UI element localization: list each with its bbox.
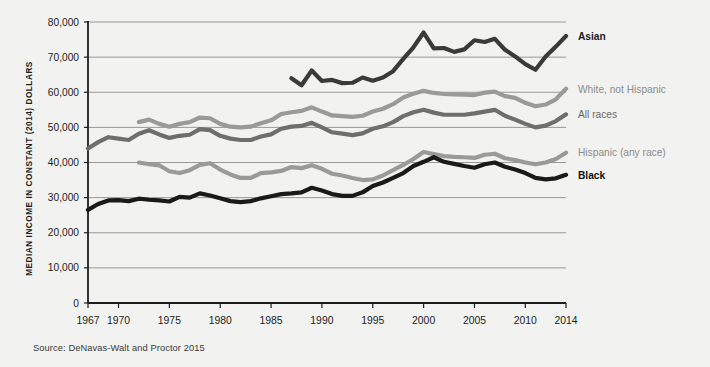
y-tick-label: 30,000 <box>48 192 79 203</box>
x-tick-label: 1970 <box>107 315 130 326</box>
y-axis-title: MEDIAN INCOME IN CONSTANT (2014) DOLLARS <box>20 26 38 311</box>
x-tick-label: 2014 <box>554 315 577 326</box>
x-tick-label: 2010 <box>514 315 537 326</box>
series-label-black: Black <box>578 170 606 181</box>
series-label-asian: Asian <box>578 31 606 42</box>
y-axis-title-text: MEDIAN INCOME IN CONSTANT (2014) DOLLARS <box>25 61 34 276</box>
series-label-all-races: All races <box>578 109 617 120</box>
y-tick-label: 10,000 <box>48 262 79 273</box>
x-tick-label: 1980 <box>209 315 232 326</box>
y-axis-tick-labels: 010,00020,00030,00040,00050,00060,00070,… <box>48 17 80 309</box>
series-line-asian <box>291 33 566 86</box>
series-line-white-not-hispanic <box>139 89 566 128</box>
x-tick-label: 1975 <box>158 315 181 326</box>
x-tick-label: 2005 <box>463 315 486 326</box>
series-label-hispanic-any-race: Hispanic (any race) <box>578 147 666 158</box>
x-axis-tick-labels: 1967197019751980198519901995200020052010… <box>76 315 577 326</box>
y-tick-label: 70,000 <box>48 52 79 63</box>
series-labels-group: AsianWhite, not HispanicAll racesHispani… <box>578 31 666 181</box>
line-chart-plot: 010,00020,00030,00040,00050,00060,00070,… <box>0 0 710 340</box>
y-tick-label: 20,000 <box>48 227 79 238</box>
data-series-group <box>88 33 566 210</box>
y-tick-label: 50,000 <box>48 122 79 133</box>
y-tick-label: 80,000 <box>48 17 79 28</box>
series-label-white-not-hispanic: White, not Hispanic <box>578 84 666 95</box>
chart-figure: MEDIAN INCOME IN CONSTANT (2014) DOLLARS… <box>0 0 710 367</box>
x-tick-label: 1967 <box>76 315 99 326</box>
x-tick-label: 2000 <box>412 315 435 326</box>
y-tick-label: 0 <box>73 298 79 309</box>
x-tick-label: 1990 <box>310 315 333 326</box>
x-tick-label: 1995 <box>361 315 384 326</box>
y-tick-label: 40,000 <box>48 157 79 168</box>
source-note: Source: DeNavas-Walt and Proctor 2015 <box>33 343 205 353</box>
y-tick-label: 60,000 <box>48 87 79 98</box>
x-tick-label: 1985 <box>260 315 283 326</box>
